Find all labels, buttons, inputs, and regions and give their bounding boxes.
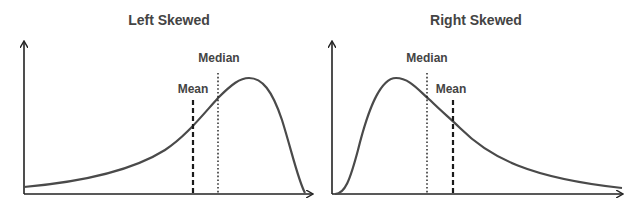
left-mean-label: Mean (178, 82, 209, 96)
skewness-diagram: Left Skewed Mean Median Right Skewed Med… (0, 0, 643, 207)
right-chart-title: Right Skewed (430, 12, 522, 28)
left-skewed-panel: Left Skewed Mean Median (24, 12, 312, 194)
left-skewed-curve (24, 78, 305, 193)
right-skewed-curve (335, 78, 622, 194)
right-mean-label: Mean (436, 82, 467, 96)
right-skewed-panel: Right Skewed Median Mean (332, 12, 622, 194)
left-chart-title: Left Skewed (128, 12, 210, 28)
right-median-label: Median (406, 51, 447, 65)
left-median-label: Median (198, 51, 239, 65)
